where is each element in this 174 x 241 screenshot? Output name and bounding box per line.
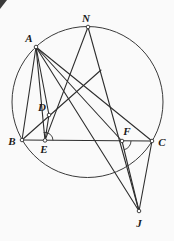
point-marker-C xyxy=(150,139,154,143)
point-label-J: J xyxy=(135,217,142,229)
segment-F-J xyxy=(122,141,139,211)
point-marker-N xyxy=(86,25,90,29)
point-marker-D xyxy=(47,113,51,117)
point-marker-B xyxy=(20,138,24,142)
point-label-F: F xyxy=(122,125,131,137)
segment-B-C xyxy=(22,140,152,141)
point-label-B: B xyxy=(7,135,15,147)
point-label-C: C xyxy=(158,136,166,148)
segment-A-C xyxy=(36,47,152,141)
scan-corner-artifact xyxy=(0,0,7,9)
segment-N-J xyxy=(88,27,139,211)
segment-A-F xyxy=(36,47,122,141)
geometry-canvas: NABCEDFJ xyxy=(0,0,174,241)
point-label-E: E xyxy=(39,143,47,155)
point-label-D: D xyxy=(37,101,46,113)
point-label-N: N xyxy=(81,12,91,24)
point-label-A: A xyxy=(24,32,32,44)
figure-page: NABCEDFJ xyxy=(0,0,174,241)
point-marker-J xyxy=(137,209,141,213)
angle-mark-F xyxy=(124,141,131,150)
point-marker-F xyxy=(120,139,124,143)
main-circle xyxy=(12,27,163,178)
point-marker-E xyxy=(43,139,47,143)
point-marker-A xyxy=(34,45,38,49)
segment-C-J xyxy=(139,141,152,211)
